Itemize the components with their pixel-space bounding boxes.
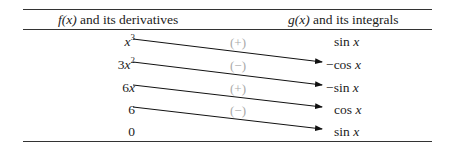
arrow-2 [133,85,322,107]
table-bottom-rule [23,141,432,142]
arrow-1 [133,62,322,85]
diagonal-arrows [0,0,453,153]
arrow-0 [133,39,322,62]
arrow-3 [133,107,322,129]
